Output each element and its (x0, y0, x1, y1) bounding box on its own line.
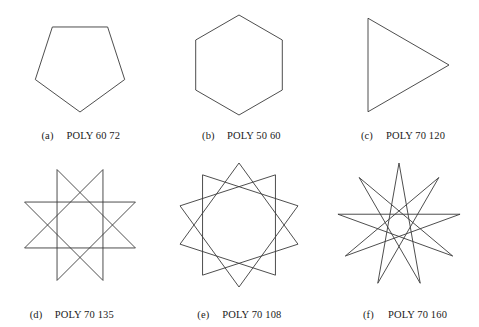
poly-svg-d (0, 163, 160, 303)
poly-canvas-a (0, 0, 160, 129)
caption-tag-b: (b) (202, 129, 219, 142)
poly-shape-c (368, 18, 449, 112)
poly-canvas-b (160, 0, 320, 129)
poly-canvas-f (319, 158, 479, 308)
poly-figure-board: (a)POLY 60 72 (b)POLY 50 60 (c)POLY 70 1… (0, 0, 479, 327)
poly-canvas-e (160, 158, 320, 308)
poly-svg-c (319, 3, 479, 127)
figure-caption-a: (a)POLY 60 72 (1, 129, 161, 146)
figure-panel-e: (e)POLY 70 108 (160, 158, 320, 327)
caption-tag-d: (d) (30, 308, 47, 321)
figure-panel-a: (a)POLY 60 72 (0, 0, 160, 146)
figure-caption-b: (b)POLY 50 60 (162, 129, 322, 146)
poly-shape-a (35, 26, 124, 111)
caption-command-f: POLY 70 160 (388, 308, 447, 321)
caption-command-c: POLY 70 120 (386, 129, 445, 142)
figure-row-top: (a)POLY 60 72 (b)POLY 50 60 (c)POLY 70 1… (0, 0, 479, 146)
poly-canvas-d (0, 158, 160, 308)
poly-svg-e (159, 163, 319, 303)
caption-tag-e: (e) (197, 308, 214, 321)
caption-command-d: POLY 70 135 (55, 308, 114, 321)
figure-panel-c: (c)POLY 70 120 (319, 0, 479, 146)
caption-tag-f: (f) (363, 308, 380, 321)
caption-command-a: POLY 60 72 (66, 129, 120, 142)
figure-caption-e: (e)POLY 70 108 (160, 308, 320, 327)
figure-caption-f: (f)POLY 70 160 (325, 308, 479, 327)
poly-shape-b (196, 15, 283, 115)
caption-tag-a: (a) (41, 129, 58, 142)
poly-svg-a (0, 3, 160, 127)
poly-svg-f (319, 163, 479, 303)
figure-panel-b: (b)POLY 50 60 (160, 0, 320, 146)
figure-row-bottom: (d)POLY 70 135 (e)POLY 70 108 (f)POLY 70… (0, 158, 479, 327)
poly-svg-b (159, 3, 319, 127)
figure-panel-d: (d)POLY 70 135 (0, 158, 160, 327)
poly-canvas-c (319, 0, 479, 129)
poly-shape-d (24, 170, 135, 281)
caption-command-e: POLY 70 108 (222, 308, 281, 321)
figure-panel-f: (f)POLY 70 160 (319, 158, 479, 327)
poly-shape-f (338, 163, 460, 283)
figure-caption-c: (c)POLY 70 120 (323, 129, 479, 146)
figure-caption-d: (d)POLY 70 135 (0, 308, 152, 327)
caption-command-b: POLY 50 60 (227, 129, 281, 142)
caption-tag-c: (c) (361, 129, 378, 142)
poly-shape-e (180, 163, 298, 287)
